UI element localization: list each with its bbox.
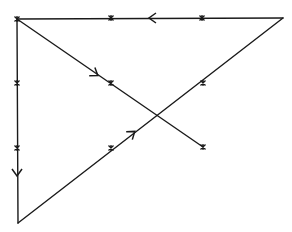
- left-edge: [17, 19, 18, 223]
- diagonal-edge: [17, 19, 203, 147]
- edges-group: [17, 18, 283, 223]
- arrows-group: [12, 13, 156, 176]
- left-arrow-down-icon: [12, 169, 22, 176]
- star-left-2-icon: [15, 145, 20, 151]
- diagram-canvas: [0, 0, 292, 232]
- star-left-1-icon: [15, 80, 20, 86]
- directed-graph-diagram: [0, 0, 292, 232]
- star-hypotenuse-2-icon: [201, 80, 206, 86]
- hypotenuse-edge: [18, 18, 283, 223]
- star-hypotenuse-1-icon: [109, 145, 114, 151]
- star-diagonal-end-icon: [201, 144, 206, 150]
